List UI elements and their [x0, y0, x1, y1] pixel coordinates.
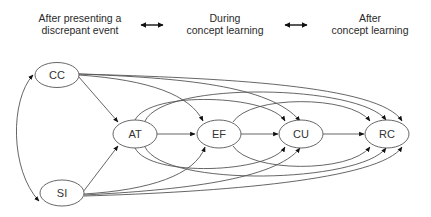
- node-cu: CU: [279, 120, 323, 148]
- node-label: CU: [293, 128, 309, 140]
- edge-at-cu-top: [135, 99, 285, 121]
- node-rc: RC: [365, 120, 409, 148]
- node-cc: CC: [35, 63, 79, 88]
- edge-si-at: [83, 146, 118, 192]
- edge-cc-cu: [79, 74, 300, 121]
- edge-cc-si: [16, 75, 39, 201]
- node-at: AT: [113, 120, 157, 148]
- edge-si-ef: [84, 147, 205, 194]
- edge-cc-at: [78, 76, 118, 122]
- path-diagram: CC SI AT EF CU RC: [0, 0, 431, 217]
- node-ef: EF: [197, 120, 241, 148]
- edge-at-cu-bottom: [135, 147, 285, 169]
- node-label: RC: [379, 128, 395, 140]
- node-label: SI: [57, 187, 67, 199]
- node-label: CC: [49, 69, 65, 81]
- node-si: SI: [40, 180, 84, 206]
- node-label: AT: [128, 128, 142, 140]
- edge-si-cu: [84, 148, 300, 195]
- node-label: EF: [212, 128, 226, 140]
